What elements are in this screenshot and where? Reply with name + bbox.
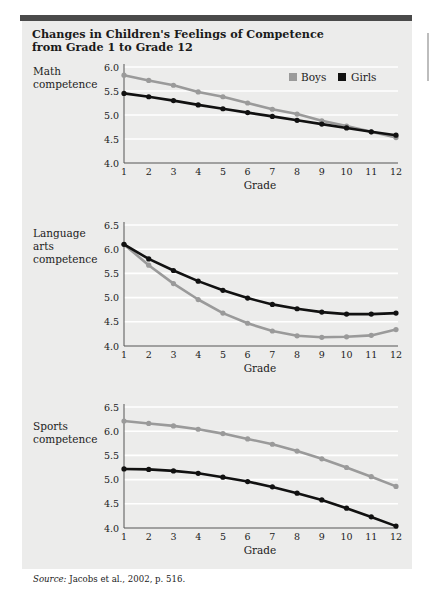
y-tick-label: 6.0: [104, 426, 119, 437]
y-tick-label: 4.0: [104, 341, 119, 352]
data-point-boys: [294, 333, 299, 338]
data-point-girls: [369, 311, 374, 316]
chart-math-competence: 6.05.55.04.54.0123456789101112GradeMathc…: [33, 62, 402, 192]
legend-boys-label: Boys: [301, 71, 326, 83]
data-point-girls: [220, 106, 225, 111]
data-point-boys: [146, 421, 151, 426]
data-point-boys: [146, 78, 151, 83]
y-axis-label: Sports: [33, 420, 68, 432]
data-point-boys: [393, 327, 398, 332]
data-point-boys: [245, 321, 250, 326]
x-tick-label: 3: [170, 166, 176, 177]
data-point-girls: [171, 268, 176, 273]
data-point-boys: [146, 263, 151, 268]
data-point-girls: [171, 98, 176, 103]
y-tick-label: 6.5: [104, 402, 119, 413]
x-tick-label: 9: [319, 531, 325, 542]
data-point-girls: [121, 242, 126, 247]
x-tick-label: 5: [220, 166, 226, 177]
data-point-girls: [245, 479, 250, 484]
data-point-girls: [245, 110, 250, 115]
x-tick-label: 4: [195, 349, 201, 360]
series-line-boys: [124, 244, 396, 337]
charts-canvas: 6.05.55.04.54.0123456789101112GradeMathc…: [0, 0, 430, 597]
y-axis-label: competence: [33, 433, 97, 445]
x-tick-label: 3: [170, 349, 176, 360]
y-tick-label: 4.5: [104, 498, 119, 509]
data-point-girls: [344, 506, 349, 511]
x-tick-label: 6: [245, 166, 251, 177]
data-point-girls: [270, 114, 275, 119]
x-tick-label: 10: [340, 531, 352, 542]
x-tick-label: 6: [245, 531, 251, 542]
data-point-boys: [344, 465, 349, 470]
data-point-girls: [171, 468, 176, 473]
data-point-boys: [369, 474, 374, 479]
x-tick-label: 2: [146, 531, 152, 542]
data-point-girls: [146, 467, 151, 472]
series-line-girls: [124, 244, 396, 314]
data-point-girls: [319, 497, 324, 502]
data-point-girls: [393, 523, 398, 528]
x-tick-label: 11: [365, 166, 377, 177]
data-point-girls: [220, 475, 225, 480]
data-point-boys: [344, 334, 349, 339]
x-tick-label: 1: [121, 531, 127, 542]
data-point-boys: [294, 448, 299, 453]
legend-boys-swatch: [289, 73, 297, 81]
y-tick-label: 4.5: [104, 316, 119, 327]
y-axis-label: Math: [33, 65, 61, 77]
y-tick-label: 5.0: [104, 292, 119, 303]
legend: BoysGirls: [289, 71, 377, 83]
data-point-girls: [270, 484, 275, 489]
data-point-girls: [121, 466, 126, 471]
data-point-boys: [196, 297, 201, 302]
data-point-girls: [146, 256, 151, 261]
data-point-boys: [196, 89, 201, 94]
data-point-girls: [294, 306, 299, 311]
data-point-girls: [245, 295, 250, 300]
data-point-boys: [245, 100, 250, 105]
x-tick-label: 10: [340, 349, 352, 360]
x-tick-label: 5: [220, 349, 226, 360]
y-tick-label: 5.5: [104, 268, 119, 279]
x-tick-label: 5: [220, 531, 226, 542]
x-tick-label: 9: [319, 349, 325, 360]
y-tick-label: 5.0: [104, 110, 119, 121]
x-axis-label: Grade: [244, 362, 277, 374]
data-point-girls: [196, 279, 201, 284]
data-point-girls: [319, 310, 324, 315]
source-text: Jacobs et al., 2002, p. 516.: [67, 574, 186, 584]
y-tick-label: 4.5: [104, 134, 119, 145]
data-point-boys: [319, 335, 324, 340]
data-point-boys: [220, 94, 225, 99]
x-tick-label: 9: [319, 166, 325, 177]
x-tick-label: 1: [121, 166, 127, 177]
y-tick-label: 4.0: [104, 523, 119, 534]
data-point-girls: [393, 133, 398, 138]
y-tick-label: 6.5: [104, 220, 119, 231]
y-tick-label: 5.5: [104, 450, 119, 461]
data-point-boys: [121, 73, 126, 78]
y-tick-label: 5.5: [104, 86, 119, 97]
data-point-girls: [121, 91, 126, 96]
y-axis-label: competence: [33, 78, 97, 90]
legend-girls-swatch: [338, 73, 346, 81]
x-tick-label: 12: [390, 531, 402, 542]
x-tick-label: 12: [390, 349, 402, 360]
data-point-boys: [220, 431, 225, 436]
data-point-girls: [369, 129, 374, 134]
data-point-girls: [393, 310, 398, 315]
x-tick-label: 4: [195, 166, 201, 177]
data-point-boys: [270, 328, 275, 333]
chart-sports-competence: 6.56.05.55.04.54.0123456789101112GradeSp…: [33, 402, 402, 557]
data-point-girls: [196, 102, 201, 107]
legend-girls-label: Girls: [351, 71, 377, 83]
x-tick-label: 3: [170, 531, 176, 542]
data-point-boys: [220, 310, 225, 315]
source-label: Source:: [33, 574, 67, 584]
data-point-boys: [270, 107, 275, 112]
x-tick-label: 7: [269, 349, 275, 360]
y-tick-label: 6.0: [104, 244, 119, 255]
x-tick-label: 10: [340, 166, 352, 177]
